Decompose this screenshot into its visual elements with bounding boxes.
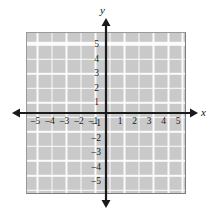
x-tick-label-1: 1 [118,117,123,127]
y-tick-label-neg1: –1 [92,119,102,129]
y-tick-label-neg3: –3 [92,148,102,158]
y-tick-label-1: 1 [94,98,99,108]
y-tick-label-neg5: –5 [92,177,102,187]
y-tick-label-neg2: –2 [92,134,102,144]
axes-layer [0,0,214,213]
x-tick-label-neg2: –2 [74,117,84,127]
y-tick-label-2: 2 [94,84,99,94]
x-tick-label-2: 2 [132,117,137,127]
y-axis-top-arrow-icon [102,18,111,26]
y-tick-label-neg4: –4 [92,163,102,173]
x-axis-label: x [201,107,206,118]
y-axis-bottom-arrow-icon [102,200,111,208]
y-tick-label-4: 4 [94,55,99,65]
y-tick-label-5: 5 [94,40,99,50]
x-tick-label-4: 4 [161,117,166,127]
x-tick-label-5: 5 [176,117,181,127]
coordinate-plane-figure: x y –5 –4 –3 –2 –1 1 2 3 4 5 5 4 3 2 1 –… [0,0,214,213]
x-tick-label-3: 3 [147,117,152,127]
x-tick-label-neg4: –4 [45,117,55,127]
x-tick-label-neg5: –5 [31,117,41,127]
x-tick-label-neg3: –3 [60,117,70,127]
y-tick-label-3: 3 [94,69,99,79]
y-axis-label: y [100,5,105,16]
x-axis-left-arrow-icon [12,109,20,118]
x-axis-right-arrow-icon [190,109,198,118]
